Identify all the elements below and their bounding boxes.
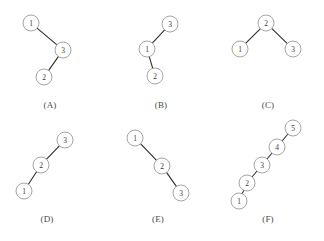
tree-node[interactable]: 2	[33, 157, 49, 173]
panel-f: 54321	[231, 120, 301, 209]
tree-node-label: 3	[291, 45, 295, 54]
tree-diagrams-canvas: 13231221332112354321	[0, 0, 324, 241]
tree-node[interactable]: 1	[127, 130, 143, 146]
tree-node[interactable]: 1	[16, 183, 32, 199]
tree-node[interactable]: 3	[162, 16, 178, 32]
panel-d: 321	[16, 132, 73, 199]
tree-node-label: 1	[29, 19, 33, 28]
panel-e: 123	[127, 130, 189, 201]
tree-node[interactable]: 2	[154, 158, 170, 174]
tree-node[interactable]: 2	[258, 15, 274, 31]
tree-edge	[166, 172, 176, 187]
tree-edge	[28, 171, 37, 184]
tree-node-label: 1	[22, 187, 26, 196]
panel-c: 213	[232, 15, 301, 57]
tree-node[interactable]: 2	[36, 69, 52, 85]
panel-b: 312	[139, 16, 178, 84]
tree-node-label: 2	[42, 73, 46, 82]
tree-node[interactable]: 1	[231, 193, 247, 209]
tree-node[interactable]: 2	[147, 68, 163, 84]
tree-edge	[149, 56, 153, 69]
panel-c-caption: (C)	[238, 100, 298, 110]
tree-node[interactable]: 1	[23, 15, 39, 31]
tree-node[interactable]: 5	[285, 120, 301, 136]
tree-node[interactable]: 3	[173, 185, 189, 201]
tree-edge	[48, 56, 58, 71]
panel-b-caption: (B)	[131, 100, 191, 110]
tree-edge	[282, 134, 288, 142]
panel-d-caption: (D)	[17, 214, 77, 224]
tree-node-label: 2	[245, 179, 249, 188]
panel-f-caption: (F)	[238, 214, 298, 224]
tree-edge	[267, 153, 272, 159]
tree-edge	[37, 28, 58, 45]
tree-node-label: 4	[275, 143, 279, 152]
tree-edge	[140, 143, 157, 160]
tree-edge	[245, 28, 260, 43]
tree-node[interactable]: 3	[285, 41, 301, 57]
tree-node-label: 1	[133, 134, 137, 143]
tree-node[interactable]: 3	[57, 132, 73, 148]
tree-node-label: 2	[160, 162, 164, 171]
tree-node-label: 3	[61, 46, 65, 55]
tree-node-label: 5	[291, 124, 295, 133]
tree-node-label: 2	[264, 19, 268, 28]
tree-node[interactable]: 1	[232, 41, 248, 57]
tree-node[interactable]: 3	[254, 157, 270, 173]
tree-edge	[46, 145, 60, 159]
tree-edge	[252, 171, 257, 177]
tree-edge	[152, 30, 165, 44]
panel-a: 132	[23, 15, 71, 85]
tree-node-label: 1	[238, 45, 242, 54]
tree-node-label: 1	[237, 197, 241, 206]
tree-node-label: 2	[39, 161, 43, 170]
tree-node-label: 3	[168, 20, 172, 29]
tree-node-label: 3	[260, 161, 264, 170]
tree-node-label: 2	[153, 72, 157, 81]
tree-figure-grid: 13231221332112354321 (A)(B)(C)(D)(E)(F)	[0, 0, 324, 241]
tree-node[interactable]: 4	[269, 139, 285, 155]
panel-a-caption: (A)	[20, 100, 80, 110]
tree-node-label: 3	[63, 136, 67, 145]
tree-node[interactable]: 1	[139, 41, 155, 57]
tree-node-label: 3	[179, 189, 183, 198]
tree-edge	[271, 28, 287, 44]
tree-node[interactable]: 2	[239, 175, 255, 191]
panel-e-caption: (E)	[128, 214, 188, 224]
tree-node-label: 1	[145, 45, 149, 54]
tree-node[interactable]: 3	[55, 42, 71, 58]
